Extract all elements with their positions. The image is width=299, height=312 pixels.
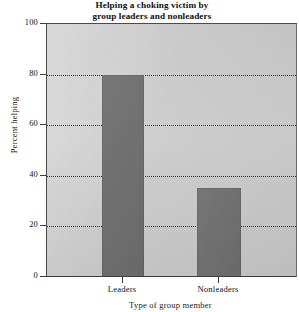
x-tick-leaders bbox=[122, 276, 123, 283]
bar-nonleaders bbox=[197, 188, 241, 277]
bar-chart-figure: Helping a choking victim by group leader… bbox=[0, 0, 299, 312]
x-tick-label-nonleaders: Nonleaders bbox=[173, 284, 263, 294]
panel-texture bbox=[47, 24, 296, 277]
gridline-80 bbox=[47, 75, 296, 76]
y-tick-40 bbox=[40, 175, 46, 176]
x-tick-label-leaders: Leaders bbox=[77, 284, 167, 294]
gridline-60 bbox=[47, 125, 296, 126]
y-axis-title: Percent helping bbox=[9, 75, 19, 175]
y-tick-100 bbox=[40, 23, 46, 24]
x-axis-line bbox=[40, 276, 296, 277]
x-axis-title: Type of group member bbox=[46, 300, 295, 310]
y-tick-60 bbox=[40, 124, 46, 125]
gridline-20 bbox=[47, 226, 296, 227]
y-tick-label-0: 0 bbox=[14, 271, 38, 280]
chart-title: Helping a choking victim by group leader… bbox=[62, 0, 242, 21]
y-tick-20 bbox=[40, 225, 46, 226]
plot-area bbox=[46, 23, 297, 277]
chart-title-line-2: group leaders and nonleaders bbox=[62, 11, 242, 22]
chart-title-line-1: Helping a choking victim by bbox=[62, 0, 242, 11]
y-tick-label-20: 20 bbox=[14, 220, 38, 229]
y-tick-label-100: 100 bbox=[14, 18, 38, 27]
y-tick-80 bbox=[40, 74, 46, 75]
y-tick-0 bbox=[40, 276, 46, 277]
bar-leaders bbox=[102, 75, 144, 277]
gridline-40 bbox=[47, 176, 296, 177]
x-tick-nonleaders bbox=[218, 276, 219, 283]
